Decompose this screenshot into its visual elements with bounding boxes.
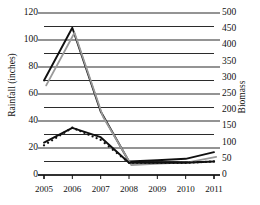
data-point <box>197 161 199 163</box>
data-point <box>55 137 57 139</box>
data-point <box>209 161 211 163</box>
data-point <box>91 135 93 137</box>
data-point <box>201 161 203 163</box>
data-point <box>140 162 142 164</box>
data-point <box>95 137 97 139</box>
chart-container: Rainfall (inches) Biomass 02040608010012… <box>0 0 260 205</box>
data-point <box>168 162 170 164</box>
data-point <box>205 161 207 163</box>
data-point <box>43 144 45 146</box>
series-line-biomass-shadow-line <box>46 33 216 165</box>
data-point <box>132 162 134 164</box>
data-point <box>63 132 65 134</box>
data-point <box>136 162 138 164</box>
data-point <box>193 161 195 163</box>
data-point <box>160 162 162 164</box>
data-point <box>124 158 126 160</box>
data-point <box>148 162 150 164</box>
data-point <box>144 162 146 164</box>
data-point <box>112 149 114 151</box>
data-point <box>213 160 215 162</box>
data-point <box>180 162 182 164</box>
data-point <box>67 129 69 131</box>
data-point <box>51 139 53 141</box>
data-point <box>75 128 77 130</box>
data-point <box>116 152 118 154</box>
data-point <box>87 134 89 136</box>
data-point <box>47 142 49 144</box>
data-point <box>104 142 106 144</box>
data-point <box>152 162 154 164</box>
data-point <box>156 162 158 164</box>
data-point <box>108 145 110 147</box>
data-point <box>79 130 81 132</box>
data-point <box>164 162 166 164</box>
data-point <box>83 132 85 134</box>
data-point <box>120 155 122 157</box>
data-point <box>189 162 191 164</box>
data-point <box>71 127 73 129</box>
data-point <box>128 162 130 164</box>
data-point <box>176 162 178 164</box>
data-point <box>100 139 102 141</box>
data-point <box>185 162 187 164</box>
series-line-rainfall-line <box>44 28 214 162</box>
data-point <box>172 162 174 164</box>
data-point <box>59 134 61 136</box>
plot-area <box>0 0 260 205</box>
